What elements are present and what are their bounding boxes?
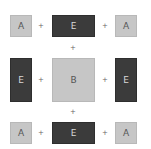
tile-bottom-left: A — [10, 122, 32, 144]
tile-bottom-right: A — [115, 122, 137, 144]
tile-middle-right: E — [115, 58, 137, 102]
tile-top-center: E — [52, 15, 95, 37]
plus-icon: + — [70, 45, 76, 52]
tile-bottom-center: E — [52, 122, 95, 144]
plus-icon: + — [102, 130, 108, 137]
plus-icon: + — [70, 109, 76, 116]
plus-icon: + — [38, 77, 44, 84]
plus-icon: + — [102, 23, 108, 30]
tile-top-right: A — [115, 15, 137, 37]
plus-icon: + — [102, 77, 108, 84]
plus-icon: + — [38, 130, 44, 137]
plus-icon: + — [38, 23, 44, 30]
tile-middle-left: E — [10, 58, 32, 102]
tile-center: B — [52, 58, 95, 102]
tile-top-left: A — [10, 15, 32, 37]
